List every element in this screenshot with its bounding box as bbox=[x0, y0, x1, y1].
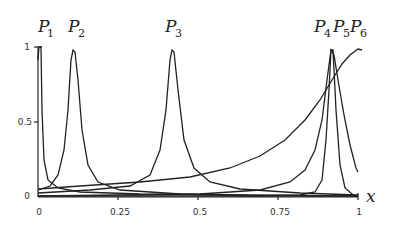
peak-label-p6: P 6 bbox=[349, 16, 367, 40]
peak-label-p5: P 5 bbox=[332, 16, 350, 40]
curve-p4 bbox=[38, 50, 358, 196]
peak-label-p3: P 3 bbox=[164, 16, 182, 40]
svg-text:3: 3 bbox=[175, 27, 182, 40]
svg-text:6: 6 bbox=[360, 27, 367, 40]
curve-p3 bbox=[38, 50, 358, 195]
curve-p1 bbox=[38, 47, 358, 196]
x-axis-label: x bbox=[366, 186, 376, 206]
peak-label-p4: P 4 bbox=[313, 16, 331, 40]
svg-text:4: 4 bbox=[324, 27, 331, 40]
curve-p5 bbox=[38, 50, 358, 196]
curve-p6 bbox=[38, 49, 362, 189]
peak-label-p2: P 2 bbox=[67, 16, 85, 40]
y-tick-label: 1 bbox=[24, 42, 30, 52]
x-tick-label: 0 bbox=[36, 207, 42, 217]
svg-text:5: 5 bbox=[343, 27, 350, 40]
chart-canvas: 1 0.5 0 0 0.25 0.5 0.75 1 x P 1 P 2 P 3 … bbox=[0, 0, 394, 233]
svg-text:2: 2 bbox=[78, 27, 85, 40]
y-tick-label: 0 bbox=[24, 191, 30, 201]
x-tick-label: 1 bbox=[356, 207, 362, 217]
curve-p2 bbox=[38, 50, 358, 196]
y-tick-label: 0.5 bbox=[18, 117, 32, 127]
x-tick-label: 0.25 bbox=[110, 207, 130, 217]
peak-label-p1: P 1 bbox=[37, 16, 54, 40]
svg-text:1: 1 bbox=[47, 27, 54, 40]
x-tick-label: 0.75 bbox=[270, 207, 290, 217]
x-tick-label: 0.5 bbox=[193, 207, 207, 217]
